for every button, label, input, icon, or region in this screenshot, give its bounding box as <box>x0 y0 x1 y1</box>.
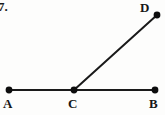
point-b-dot <box>152 87 159 94</box>
point-label-a: A <box>3 97 12 110</box>
segment-cd <box>74 15 157 90</box>
point-a-dot <box>6 87 13 94</box>
point-label-d: D <box>140 1 149 14</box>
point-d-dot <box>154 12 161 19</box>
point-label-b: B <box>149 97 158 110</box>
geometry-diagram <box>0 0 165 115</box>
point-c-dot <box>71 87 78 94</box>
geometry-figure-screenshot: 7. A C B D <box>0 0 165 115</box>
point-label-c: C <box>68 97 77 110</box>
